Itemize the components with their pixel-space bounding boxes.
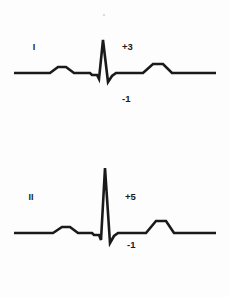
scan-artifact-speck <box>103 14 105 16</box>
lead-I-trace-group: I +3 -1 <box>14 40 216 104</box>
lead-label-I: I <box>33 42 36 52</box>
lead-label-II: II <box>28 192 33 202</box>
amplitude-label-negative-lead-II: -1 <box>127 239 136 250</box>
ecg-chart: I +3 -1 II +5 -1 <box>0 0 229 297</box>
ecg-figure: I +3 -1 II +5 -1 <box>0 0 229 297</box>
lead-II-trace-group: II +5 -1 <box>14 168 216 250</box>
amplitude-label-positive-lead-II: +5 <box>125 191 137 202</box>
ecg-waveform-lead-II <box>14 168 216 243</box>
amplitude-label-positive-lead-I: +3 <box>122 41 133 52</box>
amplitude-label-negative-lead-I: -1 <box>122 93 131 104</box>
ecg-waveform-lead-I <box>14 40 216 82</box>
